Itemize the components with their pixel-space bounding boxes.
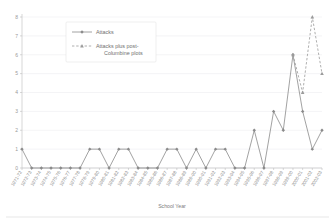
data-point	[146, 166, 149, 169]
y-tick-label: 2	[15, 127, 18, 133]
data-point	[282, 129, 285, 132]
data-point	[272, 110, 275, 113]
data-point	[59, 166, 62, 169]
data-point	[243, 166, 246, 169]
data-point	[49, 166, 52, 169]
y-tick-label: 8	[15, 14, 18, 20]
data-point	[224, 147, 227, 150]
data-point	[233, 166, 236, 169]
data-point	[214, 147, 217, 150]
data-point	[88, 147, 91, 150]
data-point	[311, 147, 314, 150]
data-point	[98, 147, 101, 150]
data-point	[136, 166, 139, 169]
data-point	[204, 166, 207, 169]
data-point	[40, 166, 43, 169]
y-tick-label: 7	[15, 33, 18, 39]
y-axis-ticks: 012345678	[15, 14, 22, 171]
data-point	[165, 147, 168, 150]
data-point	[253, 129, 256, 132]
chart-container: 012345678 1971-721972-731973-741974-7519…	[0, 0, 335, 224]
data-point	[175, 147, 178, 150]
y-tick-label: 3	[15, 108, 18, 114]
data-point	[117, 147, 120, 150]
y-tick-label: 5	[15, 70, 18, 76]
data-point	[185, 166, 188, 169]
data-point	[127, 147, 130, 150]
data-point	[20, 147, 23, 150]
data-point	[30, 166, 33, 169]
data-point	[69, 166, 72, 169]
data-point	[156, 166, 159, 169]
y-tick-label: 4	[15, 89, 18, 95]
x-axis-title: School Year	[158, 203, 186, 209]
data-point	[107, 166, 110, 169]
y-tick-label: 6	[15, 52, 18, 58]
y-tick-label: 1	[15, 146, 18, 152]
data-point	[262, 166, 265, 169]
data-point	[320, 129, 323, 132]
legend-label-plots-line1: Attacks plus post-	[96, 43, 139, 49]
chart-legend: AttacksAttacks plus post-Columbine plots	[66, 22, 156, 62]
data-point	[301, 110, 304, 113]
line-chart: 012345678 1971-721972-731973-741974-7519…	[0, 0, 335, 224]
legend-label-plots-line2: Columbine plots	[104, 50, 143, 56]
data-point	[78, 166, 81, 169]
x-axis-ticks: 1971-721972-731973-741974-751975-761976-…	[10, 168, 323, 187]
legend-label-attacks: Attacks	[96, 29, 114, 35]
data-point	[194, 147, 197, 150]
